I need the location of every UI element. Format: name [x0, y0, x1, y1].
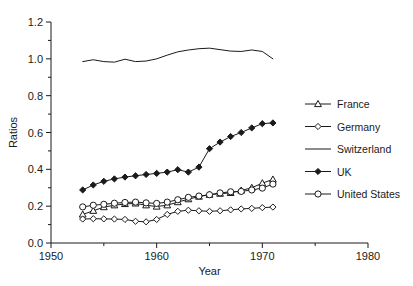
chart-container: 0.00.20.40.60.81.01.21950196019701980Yea…: [0, 0, 413, 286]
series-marker-united-states: [206, 192, 212, 198]
y-tick-label: 1.2: [28, 16, 43, 28]
series-marker-germany: [238, 206, 244, 212]
series-marker-germany: [196, 208, 202, 214]
series-marker-uk: [228, 133, 234, 139]
y-tick-label: 0.2: [28, 200, 43, 212]
series-marker-germany: [132, 218, 138, 224]
series-marker-united-states: [196, 193, 202, 199]
series-marker-uk: [206, 146, 212, 152]
series-marker-uk: [249, 125, 255, 131]
series-marker-germany: [90, 216, 96, 222]
series-marker-united-states: [90, 202, 96, 208]
series-marker-uk: [111, 176, 117, 182]
series-marker-germany: [111, 216, 117, 222]
series-marker-germany: [154, 216, 160, 222]
series-marker-uk: [185, 169, 191, 175]
x-tick-label: 1950: [39, 250, 63, 262]
legend-marker-germany: [315, 123, 321, 129]
series-marker-uk: [217, 139, 223, 145]
series-marker-uk: [238, 129, 244, 135]
series-marker-united-states: [228, 189, 234, 195]
series-marker-uk: [122, 174, 128, 180]
series-marker-united-states: [122, 199, 128, 205]
series-marker-united-states: [259, 185, 265, 191]
series-marker-united-states: [270, 181, 276, 187]
series-marker-united-states: [143, 200, 149, 206]
series-marker-germany: [185, 207, 191, 213]
y-axis-title: Ratios: [7, 116, 19, 148]
series-marker-united-states: [217, 190, 223, 196]
series-marker-germany: [206, 208, 212, 214]
legend-label-france[interactable]: France: [337, 98, 370, 110]
series-marker-germany: [122, 216, 128, 222]
series-marker-germany: [249, 205, 255, 211]
series-marker-united-states: [80, 204, 86, 210]
series-marker-germany: [259, 205, 265, 211]
x-tick-label: 1970: [250, 250, 274, 262]
series-marker-united-states: [154, 200, 160, 206]
series-marker-united-states: [185, 194, 191, 200]
legend-label-united-states[interactable]: United States: [337, 188, 400, 200]
series-marker-germany: [175, 208, 181, 214]
legend-label-germany[interactable]: Germany: [337, 121, 381, 133]
series-marker-united-states: [111, 200, 117, 206]
series-marker-united-states: [101, 201, 107, 207]
series-marker-germany: [270, 204, 276, 210]
series-marker-germany: [217, 208, 223, 214]
series-marker-uk: [164, 169, 170, 175]
series-marker-uk: [80, 187, 86, 193]
series-marker-united-states: [164, 199, 170, 205]
series-marker-uk: [90, 182, 96, 188]
series-marker-germany: [143, 219, 149, 225]
series-marker-uk: [132, 173, 138, 179]
x-tick-label: 1960: [144, 250, 168, 262]
y-tick-label: 1.0: [28, 53, 43, 65]
series-marker-uk: [143, 171, 149, 177]
legend-marker-united-states: [315, 191, 321, 197]
series-marker-germany: [164, 211, 170, 217]
series-marker-uk: [175, 167, 181, 173]
y-tick-label: 0.0: [28, 237, 43, 249]
series-marker-uk: [154, 170, 160, 176]
series-marker-uk: [259, 121, 265, 127]
y-tick-label: 0.4: [28, 163, 43, 175]
series-marker-uk: [196, 164, 202, 170]
series-line-switzerland: [83, 48, 273, 62]
y-tick-label: 0.8: [28, 90, 43, 102]
series-marker-uk: [270, 120, 276, 126]
x-axis-title: Year: [198, 265, 221, 277]
series-marker-united-states: [132, 199, 138, 205]
series-marker-united-states: [175, 197, 181, 203]
legend-label-uk[interactable]: UK: [337, 166, 352, 178]
series-marker-uk: [101, 178, 107, 184]
series-marker-united-states: [238, 188, 244, 194]
y-tick-label: 0.6: [28, 127, 43, 139]
x-tick-label: 1980: [356, 250, 380, 262]
legend-label-switzerland[interactable]: Switzerland: [337, 143, 391, 155]
series-marker-germany: [101, 216, 107, 222]
ratios-by-year-line-chart: 0.00.20.40.60.81.01.21950196019701980Yea…: [0, 0, 413, 286]
legend-marker-uk: [315, 168, 321, 174]
series-marker-united-states: [249, 187, 255, 193]
series-marker-germany: [228, 207, 234, 213]
